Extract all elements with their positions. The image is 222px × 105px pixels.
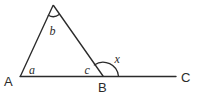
angle-label-x: x xyxy=(114,52,121,66)
angle-label-b: b xyxy=(50,24,56,38)
side-apex-b xyxy=(54,6,104,77)
geometry-figure: A B C a b c x xyxy=(0,0,222,105)
triangle-diagram-svg: A B C a b c x xyxy=(0,0,222,105)
angle-label-c: c xyxy=(85,63,91,77)
vertex-label-a: A xyxy=(4,74,13,89)
angle-arc-b xyxy=(48,15,59,17)
angle-label-a: a xyxy=(29,63,35,77)
vertex-label-b: B xyxy=(98,80,107,95)
vertex-label-c: C xyxy=(181,70,190,85)
side-a-apex xyxy=(21,6,54,77)
